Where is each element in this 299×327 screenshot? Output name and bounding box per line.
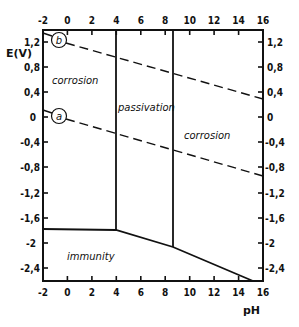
- svg-text:2: 2: [89, 287, 95, 298]
- label-b-marker: b: [52, 33, 67, 48]
- svg-text:12: 12: [208, 15, 221, 26]
- svg-text:-2,4: -2,4: [20, 263, 40, 274]
- svg-text:-1,2: -1,2: [20, 188, 40, 199]
- svg-text:0,8: 0,8: [24, 62, 40, 73]
- line-a-leader: [43, 110, 52, 113]
- svg-text:-2: -2: [38, 15, 48, 26]
- region-immunity: immunity: [67, 251, 116, 262]
- svg-text:0: 0: [30, 112, 36, 123]
- label-a-marker: a: [52, 109, 67, 124]
- svg-text:16: 16: [257, 15, 270, 26]
- svg-text:-2: -2: [265, 238, 275, 249]
- line-b: [66, 43, 263, 99]
- svg-text:0: 0: [64, 15, 70, 26]
- svg-text:0,4: 0,4: [24, 87, 40, 98]
- svg-text:-0,4: -0,4: [265, 137, 285, 148]
- svg-text:-0,8: -0,8: [265, 162, 285, 173]
- line-b-leader: [43, 33, 52, 36]
- svg-text:10: 10: [183, 15, 196, 26]
- svg-text:6: 6: [138, 287, 144, 298]
- svg-text:8: 8: [162, 15, 168, 26]
- right-y-tick-labels: 1,2 0,8 0,4 0 -0,4 -0,8 -1,2 -1,6 -2 -2,…: [265, 37, 285, 274]
- svg-text:-2: -2: [38, 287, 48, 298]
- svg-text:-0,8: -0,8: [20, 162, 40, 173]
- line-a: [66, 119, 263, 176]
- svg-text:14: 14: [232, 15, 245, 26]
- svg-text:0: 0: [267, 112, 273, 123]
- top-x-tick-labels: -2 0 2 4 6 8 10 12 14 16: [38, 15, 269, 26]
- svg-text:14: 14: [232, 287, 245, 298]
- svg-text:-0,4: -0,4: [20, 137, 40, 148]
- svg-text:4: 4: [113, 287, 119, 298]
- left-y-tick-labels: 1,2 0,8 0,4 0 -0,4 -0,8 -1,2 -1,6 -2 -2,…: [20, 37, 40, 274]
- svg-text:-2: -2: [26, 238, 36, 249]
- svg-text:8: 8: [162, 287, 168, 298]
- svg-text:10: 10: [183, 287, 196, 298]
- region-passivation: passivation: [117, 102, 175, 113]
- region-corrosion-right: corrosion: [184, 130, 230, 141]
- svg-text:6: 6: [138, 15, 144, 26]
- svg-text:2: 2: [89, 15, 95, 26]
- svg-text:-1,2: -1,2: [265, 188, 285, 199]
- svg-text:-1,6: -1,6: [20, 213, 40, 224]
- x-axis-label: pH: [243, 304, 260, 317]
- region-corrosion-left: corrosion: [52, 75, 98, 86]
- svg-text:4: 4: [113, 15, 119, 26]
- pourbaix-diagram: -2 0 2 4 6 8 10 12 14 16 -2 0 2 4 6 8 10…: [0, 0, 299, 327]
- svg-text:-2,4: -2,4: [265, 263, 285, 274]
- svg-text:0,8: 0,8: [267, 62, 283, 73]
- svg-text:a: a: [56, 111, 62, 122]
- svg-text:12: 12: [208, 287, 221, 298]
- svg-text:1,2: 1,2: [267, 37, 283, 48]
- svg-text:-1,6: -1,6: [265, 213, 285, 224]
- svg-text:b: b: [56, 35, 62, 46]
- y-axis-label: E(V): [6, 47, 32, 60]
- svg-text:0: 0: [64, 287, 70, 298]
- svg-text:16: 16: [257, 287, 270, 298]
- svg-text:0,4: 0,4: [267, 87, 283, 98]
- bottom-x-tick-labels: -2 0 2 4 6 8 10 12 14 16: [38, 287, 269, 298]
